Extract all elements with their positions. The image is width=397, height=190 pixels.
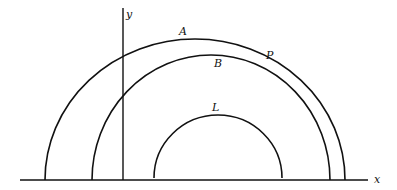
arc-a-label: A (178, 25, 187, 38)
semicircle-diagram: y x A B L P (0, 0, 397, 190)
arc-a (45, 39, 345, 180)
arc-l-label: L (211, 101, 219, 114)
arc-l (154, 115, 282, 178)
y-axis-label: y (125, 8, 133, 21)
x-axis-label: x (374, 173, 381, 186)
point-p-label: P (265, 49, 274, 62)
arc-b-label: B (213, 57, 222, 70)
